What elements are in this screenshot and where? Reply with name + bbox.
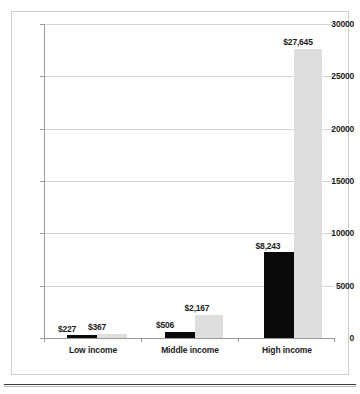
x-axis-separator-1 [141, 338, 142, 342]
gridline-10000 [44, 233, 334, 234]
bar-high-income-black [264, 252, 294, 338]
y-tick-mark-15000 [40, 181, 44, 182]
y-axis-label-30000: 30000 [316, 19, 360, 29]
y-tick-mark-10000 [40, 233, 44, 234]
gridline-30000 [44, 24, 334, 25]
bar-label-high-income-gray: $27,645 [275, 37, 321, 47]
y-axis-label-25000: 25000 [316, 71, 360, 81]
x-axis-category-high-income: High income [242, 345, 332, 356]
x-axis-separator-0 [44, 338, 45, 342]
x-axis-separator-2 [238, 338, 239, 342]
gridline-25000 [44, 76, 334, 77]
y-axis-label-5000: 5000 [316, 281, 360, 291]
gridline-15000 [44, 181, 334, 182]
bottom-divider-rule [4, 384, 356, 385]
y-axis-line [44, 24, 45, 339]
x-axis-category-low-income: Low income [48, 345, 138, 356]
y-tick-mark-25000 [40, 76, 44, 77]
bar-label-low-income-black: $227 [52, 324, 82, 334]
bar-high-income-gray [294, 49, 322, 338]
gridline-20000 [44, 129, 334, 130]
y-tick-mark-20000 [40, 129, 44, 130]
bar-label-low-income-gray: $367 [82, 322, 112, 332]
y-axis-label-15000: 15000 [316, 176, 360, 186]
bar-label-high-income-black: $8,243 [249, 241, 287, 251]
y-axis-label-0: 0 [316, 333, 360, 343]
x-axis-category-middle-income: Middle income [145, 345, 235, 356]
y-axis-label-20000: 20000 [316, 124, 360, 134]
y-axis-label-10000: 10000 [316, 228, 360, 238]
x-axis-line [44, 338, 335, 339]
plot-area [44, 24, 334, 338]
bar-middle-income-gray [195, 315, 223, 338]
bar-label-middle-income-black: $506 [150, 320, 180, 330]
y-tick-mark-5000 [40, 286, 44, 287]
bottom-divider-rule-soft [4, 386, 356, 387]
y-tick-mark-30000 [40, 24, 44, 25]
x-axis-separator-3 [334, 338, 335, 342]
bar-chart-figure: 30000 25000 20000 15000 10000 5000 0 $22… [0, 0, 360, 394]
bar-label-middle-income-gray: $2,167 [178, 303, 216, 313]
